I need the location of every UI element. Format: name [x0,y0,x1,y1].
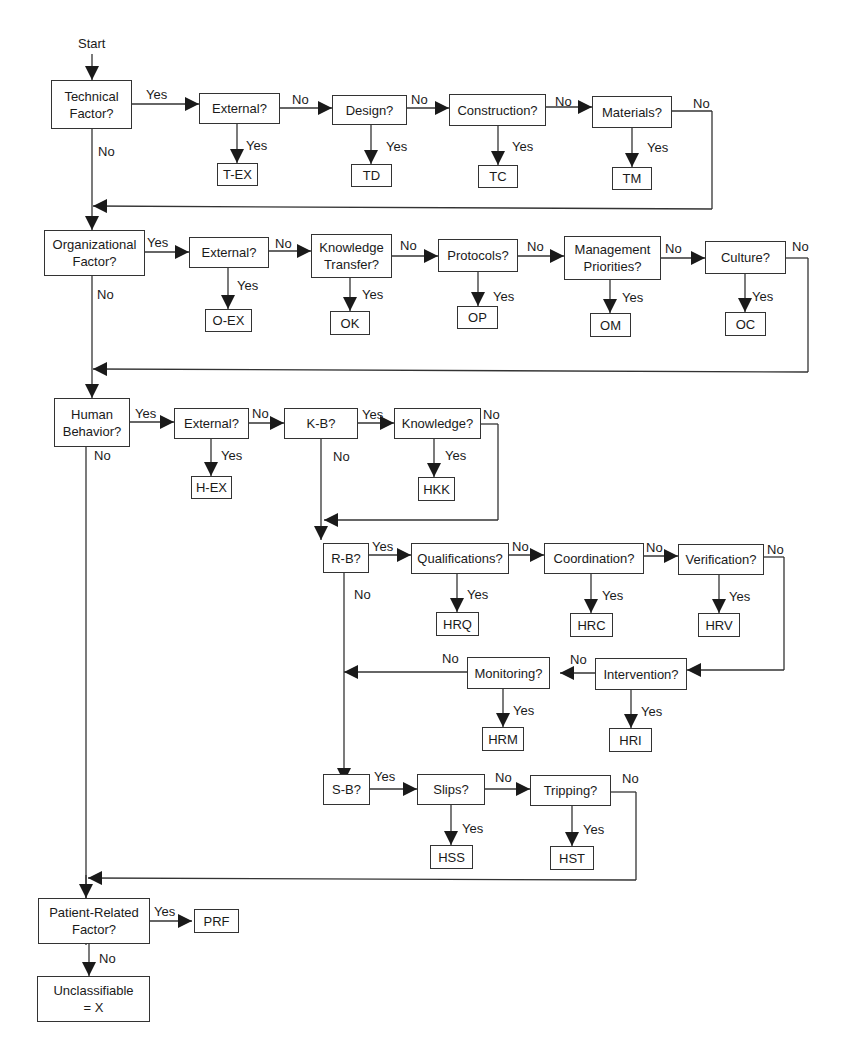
intervention-decision: Intervention? [595,658,687,690]
yes-label: Yes [513,704,534,718]
yes-label: Yes [622,291,643,305]
yes-label: Yes [154,905,175,919]
knowledge-transfer-decision: Knowledge Transfer? [311,234,392,278]
yes-label: Yes [647,141,668,155]
culture-decision: Culture? [705,241,786,274]
start-label: Start [78,37,105,51]
hri-outcome: HRI [609,728,652,752]
knowledge-based-decision: K-B? [284,408,358,439]
no-label: No [665,242,682,256]
no-label: No [400,239,417,253]
hkk-outcome: HKK [418,477,455,501]
unclassifiable-outcome: Unclassifiable = X [37,976,150,1022]
no-label: No [275,237,292,251]
human-external-decision: External? [174,408,249,439]
no-label: No [555,95,572,109]
no-label: No [99,952,116,966]
ok-outcome: OK [330,311,370,335]
technical-external-decision: External? [199,93,280,124]
no-label: No [495,771,512,785]
tripping-decision: Tripping? [530,775,611,806]
yes-label: Yes [221,449,242,463]
hrq-outcome: HRQ [436,612,479,636]
knowledge-decision: Knowledge? [394,408,481,439]
yes-label: Yes [602,589,623,603]
no-label: No [483,408,500,422]
no-label: No [292,93,309,107]
hrm-outcome: HRM [482,727,524,751]
yes-label: Yes [467,588,488,602]
yes-label: Yes [462,822,483,836]
no-label: No [442,652,459,666]
om-outcome: OM [590,313,631,337]
no-label: No [512,540,529,554]
no-label: No [527,240,544,254]
no-label: No [354,588,371,602]
yes-label: Yes [372,540,393,554]
yes-label: Yes [135,407,156,421]
no-label: No [411,93,428,107]
slips-decision: Slips? [417,774,485,805]
yes-label: Yes [237,279,258,293]
yes-label: Yes [374,770,395,784]
op-outcome: OP [457,306,498,329]
yes-label: Yes [146,88,167,102]
organizational-external-decision: External? [189,237,269,268]
t-ex-outcome: T-EX [217,163,258,186]
no-label: No [333,450,350,464]
technical-factor-decision: Technical Factor? [51,80,132,129]
skill-based-decision: S-B? [323,774,370,805]
yes-label: Yes [512,140,533,154]
yes-label: Yes [362,408,383,422]
yes-label: Yes [147,236,168,250]
hrc-outcome: HRC [570,613,613,637]
no-label: No [622,772,639,786]
human-behavior-decision: Human Behavior? [54,398,130,447]
yes-label: Yes [386,140,407,154]
tc-outcome: TC [478,165,518,188]
hst-outcome: HST [550,846,594,870]
rule-based-decision: R-B? [323,543,369,573]
yes-label: Yes [493,290,514,304]
design-decision: Design? [332,95,407,125]
organizational-factor-decision: Organizational Factor? [44,230,145,276]
materials-decision: Materials? [592,96,672,128]
yes-label: Yes [641,705,662,719]
protocols-decision: Protocols? [438,239,518,272]
o-ex-outcome: O-EX [205,309,252,332]
yes-label: Yes [445,449,466,463]
coordination-decision: Coordination? [544,543,644,574]
yes-label: Yes [362,288,383,302]
no-label: No [252,407,269,421]
no-label: No [97,288,114,302]
h-ex-outcome: H-EX [191,476,232,499]
construction-decision: Construction? [449,94,546,126]
prf-outcome: PRF [194,909,239,933]
no-label: No [767,543,784,557]
no-label: No [693,97,710,111]
no-label: No [570,653,587,667]
yes-label: Yes [729,590,750,604]
yes-label: Yes [583,823,604,837]
qualifications-decision: Qualifications? [411,543,509,574]
monitoring-decision: Monitoring? [467,657,550,689]
no-label: No [646,541,663,555]
yes-label: Yes [752,290,773,304]
patient-related-factor-decision: Patient-Related Factor? [38,898,150,944]
no-label: No [98,145,115,159]
hss-outcome: HSS [430,845,473,869]
hrv-outcome: HRV [698,613,740,637]
no-label: No [792,240,809,254]
td-outcome: TD [351,164,392,187]
verification-decision: Verification? [678,544,764,575]
oc-outcome: OC [725,312,766,336]
yes-label: Yes [246,139,267,153]
no-label: No [94,449,111,463]
management-priorities-decision: Management Priorities? [564,236,661,280]
tm-outcome: TM [612,167,652,190]
